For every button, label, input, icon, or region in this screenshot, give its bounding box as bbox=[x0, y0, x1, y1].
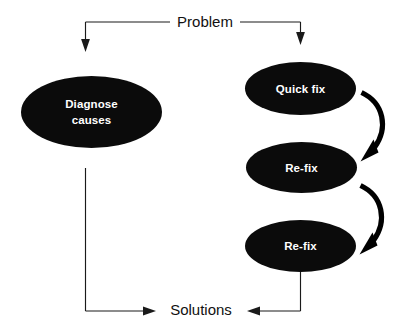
diagnose-exit-arrowhead bbox=[143, 307, 156, 316]
loop-arrow-2-curve bbox=[361, 186, 382, 241]
re-fix-1-label: Re-fix bbox=[285, 162, 318, 174]
node-diagnose-causes[interactable]: Diagnose causes bbox=[21, 76, 162, 148]
diagram-canvas: Problem Diagnose causes Quick fix Re-fix… bbox=[0, 0, 403, 332]
re-fix-exit-arrowhead bbox=[247, 307, 260, 316]
node-re-fix-2[interactable]: Re-fix bbox=[245, 220, 356, 272]
re-fix-2-label: Re-fix bbox=[284, 240, 317, 252]
loop-arrow-re-fix-to-re-fix bbox=[360, 186, 382, 255]
re-fix-to-solutions-connector bbox=[247, 272, 301, 315]
diagnose-causes-ellipse bbox=[21, 76, 162, 148]
diagnose-causes-label-line2: causes bbox=[72, 114, 112, 126]
solutions-label: Solutions bbox=[170, 301, 232, 318]
node-quick-fix[interactable]: Quick fix bbox=[245, 62, 356, 115]
problem-right-arrowhead bbox=[296, 32, 305, 45]
diagram-root: Problem Diagnose causes Quick fix Re-fix… bbox=[0, 0, 403, 332]
loop-arrow-1-curve bbox=[362, 93, 383, 148]
diagnose-causes-label-line1: Diagnose bbox=[65, 98, 118, 110]
diagnose-to-solutions-connector bbox=[86, 168, 157, 315]
node-re-fix-1[interactable]: Re-fix bbox=[246, 142, 357, 193]
loop-arrow-quick-fix-to-re-fix bbox=[361, 93, 383, 162]
problem-label: Problem bbox=[177, 13, 233, 30]
problem-left-arrowhead bbox=[81, 39, 90, 52]
quick-fix-label: Quick fix bbox=[276, 83, 326, 95]
